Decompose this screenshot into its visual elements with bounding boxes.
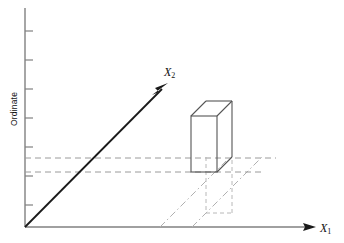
figure-canvas: X1 X2 Ordinate <box>0 0 344 243</box>
box-bottom-right-depth-edge <box>217 157 232 172</box>
ordinate-axis-label: Ordinate <box>9 79 19 139</box>
x2-axis-arrowhead <box>152 83 168 95</box>
box-front-face <box>191 116 217 172</box>
box-top-left-depth-edge <box>191 101 206 116</box>
box-top-right-depth-edge <box>217 101 232 116</box>
x2-axis-label: X2 <box>164 66 175 78</box>
figure-svg <box>0 0 344 243</box>
x2-axis-label-subscript: 2 <box>171 71 175 80</box>
oblique-projection-line-left <box>160 161 226 227</box>
x1-axis-label: X1 <box>320 222 331 234</box>
oblique-projection-line-right <box>192 156 263 227</box>
x1-axis-label-subscript: 1 <box>327 227 331 236</box>
